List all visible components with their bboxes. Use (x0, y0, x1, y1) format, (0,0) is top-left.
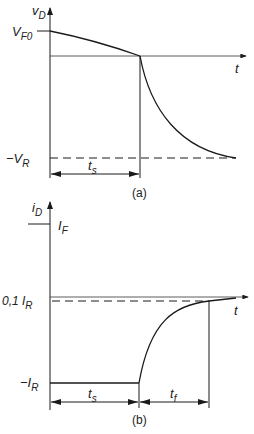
voltage-plot-a (37, 8, 246, 178)
id-axis-label: iD (32, 201, 42, 218)
vd-axis-label: vD (32, 4, 46, 21)
neg-vr-label: −VR (6, 152, 30, 169)
caption-b: (b) (132, 414, 147, 426)
recovery-current-curve (139, 298, 236, 383)
tf-label: tf (170, 387, 176, 404)
forward-voltage-curve (50, 31, 140, 56)
t-label-a: t (235, 62, 239, 75)
t-label-b: t (234, 304, 238, 317)
threshold-label: 0,1 IR (2, 295, 33, 311)
reverse-voltage-curve (140, 56, 236, 158)
if-label: IF (58, 219, 68, 236)
ts-label-b: ts (88, 387, 97, 404)
vf0-label: VF0 (12, 25, 32, 42)
caption-a: (a) (132, 187, 147, 199)
neg-ir-label: −IR (20, 376, 38, 393)
ts-label-a: ts (88, 159, 97, 176)
